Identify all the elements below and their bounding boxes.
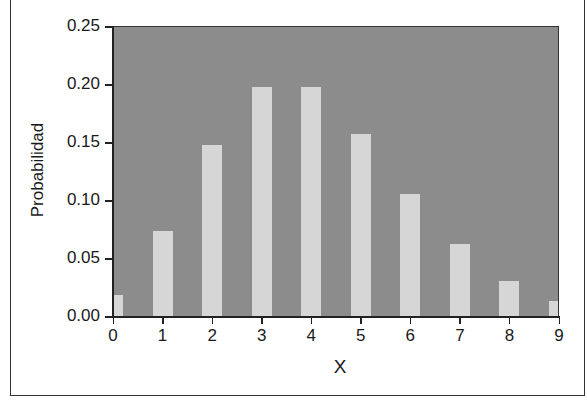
x-tick-label: 8 [494,326,524,346]
y-tick-mark [105,200,113,202]
y-tick-label: 0.25 [40,17,100,35]
x-tick-mark [410,317,412,324]
plot-area [113,26,559,316]
bar-x-7 [450,244,470,316]
y-tick-label: 0.15 [40,133,100,151]
x-tick-label: 2 [197,326,227,346]
y-tick-mark [105,258,113,260]
x-tick-label: 7 [445,326,475,346]
bar-x-3 [252,87,272,316]
x-tick-mark [212,317,214,324]
y-tick-label: 0.20 [40,75,100,93]
bar-x-4 [301,87,321,316]
x-tick-label: 0 [98,326,128,346]
x-tick-label: 4 [296,326,326,346]
y-axis-title: Probabilidad [28,110,48,230]
x-tick-label: 1 [148,326,178,346]
bar-x-0 [113,295,123,316]
y-tick-mark [105,84,113,86]
x-axis-line [112,316,560,318]
bar-x-6 [400,194,420,316]
bar-x-9 [549,301,559,316]
y-tick-mark [105,26,113,28]
x-tick-mark [311,317,313,324]
bar-x-2 [202,145,222,316]
y-tick-mark [105,142,113,144]
x-tick-mark [261,317,263,324]
x-tick-mark [509,317,511,324]
bar-x-5 [351,134,371,316]
y-tick-label: 0.10 [40,191,100,209]
bar-x-8 [499,281,519,316]
x-tick-label: 3 [247,326,277,346]
y-axis-line [112,26,114,318]
y-tick-label: 0.00 [40,307,100,325]
x-tick-label: 6 [395,326,425,346]
x-tick-mark [162,317,164,324]
x-tick-mark [459,317,461,324]
x-tick-mark [113,317,115,324]
bar-x-1 [153,231,173,316]
x-tick-label: 9 [544,326,574,346]
x-tick-label: 5 [346,326,376,346]
y-tick-label: 0.05 [40,249,100,267]
x-tick-mark [360,317,362,324]
x-tick-mark [559,317,561,324]
x-axis-title: X [320,356,360,378]
